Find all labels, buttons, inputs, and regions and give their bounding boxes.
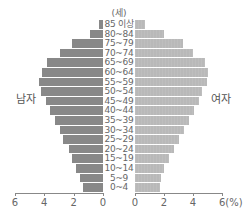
female-bar [135, 58, 205, 67]
male-bar [42, 68, 103, 77]
male-bar [60, 126, 103, 135]
male-bar [72, 39, 103, 48]
male-bar [80, 174, 103, 183]
male-bar [72, 154, 103, 163]
female-bar [135, 39, 183, 48]
male-bar [76, 164, 103, 173]
male-bar [60, 49, 103, 58]
male-bar [46, 97, 103, 106]
female-bar [135, 126, 184, 135]
female-bar [135, 164, 164, 173]
axis-tick [103, 193, 104, 196]
axis-tick [74, 193, 75, 196]
female-bar [135, 30, 164, 39]
axis-tick [135, 193, 136, 196]
population-pyramid-chart: (세) 85 이상80~8475~7970~7465~6960~6455~595… [0, 0, 248, 215]
female-label: 여자 [211, 90, 231, 106]
female-bar [135, 78, 207, 87]
male-x-axis [15, 193, 103, 194]
male-bar [90, 30, 103, 39]
axis-tick [164, 193, 165, 196]
male-bar [50, 106, 103, 115]
female-bar [135, 97, 199, 106]
female-bar [135, 145, 174, 154]
female-bar [135, 49, 193, 58]
male-bar [41, 87, 103, 96]
female-bar [135, 154, 169, 163]
male-bar [69, 145, 103, 154]
axis-tick [44, 193, 45, 196]
axis-tick [222, 193, 223, 196]
female-bar [135, 20, 145, 29]
tick-label: 4 [190, 197, 196, 208]
tick-label: 0 [100, 197, 106, 208]
tick-label: 6 [12, 197, 18, 208]
female-bar [135, 174, 161, 183]
male-bar [55, 116, 103, 125]
male-bar [83, 183, 104, 192]
axis-tick [15, 193, 16, 196]
male-bar [63, 135, 103, 144]
female-bar [135, 135, 179, 144]
female-bar [135, 87, 202, 96]
tick-label: 0 [132, 197, 138, 208]
male-bar [39, 78, 103, 87]
female-bar [135, 106, 194, 115]
axis-tick [193, 193, 194, 196]
tick-label: 6(%) [219, 197, 243, 208]
tick-label: 4 [41, 197, 47, 208]
female-bar [135, 183, 160, 192]
tick-label: 2 [71, 197, 77, 208]
pyramid-row: 0~4 [0, 183, 248, 192]
male-bar [47, 58, 103, 67]
tick-label: 2 [161, 197, 167, 208]
female-x-axis [135, 193, 222, 194]
age-unit-label: (세) [103, 8, 135, 19]
female-bar [135, 68, 208, 77]
female-bar [135, 116, 189, 125]
age-group-label: 0~4 [103, 182, 135, 193]
male-label: 남자 [16, 90, 36, 106]
